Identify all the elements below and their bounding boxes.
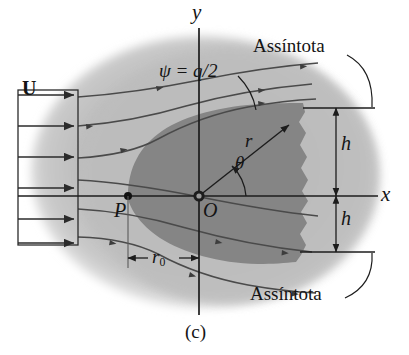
radius-label: r — [245, 131, 252, 150]
stagnation-point-label: P — [114, 200, 126, 220]
y-axis-label: y — [192, 2, 201, 23]
x-axis-label: x — [381, 184, 390, 205]
asymptote-leader-upper — [347, 55, 372, 107]
figure-canvas — [0, 0, 409, 355]
streamfunction-label: ψ = q/2 — [159, 61, 217, 80]
rankine-half-body-figure: y x U P O r θ ψ = q/2 r0 h h Assíntota A… — [0, 0, 409, 355]
asymptote-lower-label: Assíntota — [250, 284, 322, 303]
nose-distance-label: r0 — [152, 247, 165, 269]
figure-caption: (c) — [185, 322, 206, 341]
nose-distance-subscript: 0 — [159, 256, 165, 269]
velocity-label: U — [22, 78, 36, 98]
asymptote-upper-label: Assíntota — [253, 36, 325, 55]
half-width-upper-label: h — [341, 133, 351, 153]
asymptote-leader-lower — [345, 253, 372, 298]
half-width-lower-label: h — [341, 208, 351, 228]
origin-label: O — [203, 200, 217, 220]
angle-label: θ — [235, 153, 244, 172]
